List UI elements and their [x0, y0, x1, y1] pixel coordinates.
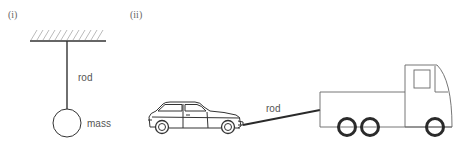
car: [148, 102, 243, 134]
ceiling-support: [30, 30, 106, 41]
tow-rod: [243, 110, 320, 125]
pendulum-mass: [53, 109, 81, 137]
diagram-canvas: [0, 0, 462, 147]
rod-label-ii: rod: [266, 104, 280, 114]
mass-label: mass: [87, 119, 111, 129]
rod-label-i: rod: [78, 73, 92, 83]
